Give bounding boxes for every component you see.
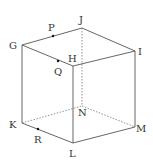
point-R [37, 128, 39, 130]
label-L: L [69, 148, 76, 159]
label-P: P [48, 22, 55, 33]
edge-NM [82, 106, 135, 127]
cube-diagram: G J I H K N M L P Q R [0, 0, 153, 166]
label-K: K [9, 119, 17, 130]
label-G: G [9, 40, 17, 51]
edge-KL [22, 123, 73, 143]
edge-JI [82, 28, 135, 51]
edge-LM [73, 127, 135, 143]
edge-HG [22, 45, 73, 66]
label-M: M [136, 123, 146, 134]
label-R: R [34, 134, 42, 145]
point-P [52, 35, 54, 37]
label-Q: Q [54, 66, 62, 77]
label-N: N [78, 107, 87, 118]
label-H: H [68, 53, 77, 64]
point-Q [57, 60, 59, 62]
label-I: I [138, 46, 142, 57]
label-J: J [78, 14, 83, 25]
